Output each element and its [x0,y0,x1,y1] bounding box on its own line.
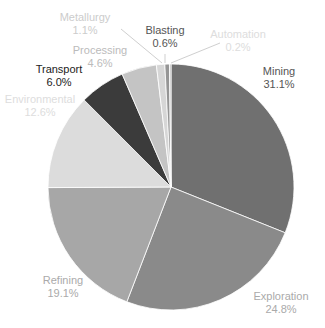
slice-label-environmental: Environmental [5,93,75,105]
slice-label-exploration: Exploration [253,290,308,302]
slice-label-metallurgy: Metallurgy [60,11,111,23]
pie-chart: Mining31.1%Exploration24.8%Refining19.1%… [0,0,325,328]
slice-pct-blasting: 0.6% [152,37,177,49]
slice-pct-refining: 19.1% [47,287,78,299]
slice-pct-exploration: 24.8% [265,303,296,315]
slice-label-mining: Mining [263,65,295,77]
slice-pct-processing: 4.6% [87,57,112,69]
slice-label-transport: Transport [36,63,83,75]
slice-label-refining: Refining [43,274,83,286]
slice-pct-environmental: 12.6% [24,106,55,118]
slice-label-automation: Automation [210,28,266,40]
leader-line-automation [171,43,220,63]
slice-pct-mining: 31.1% [263,78,294,90]
pie-slices [48,64,294,310]
slice-label-processing: Processing [73,44,127,56]
slice-pct-transport: 6.0% [46,76,71,88]
slice-label-blasting: Blasting [145,24,184,36]
slice-pct-automation: 0.2% [225,41,250,53]
slice-pct-metallurgy: 1.1% [72,24,97,36]
